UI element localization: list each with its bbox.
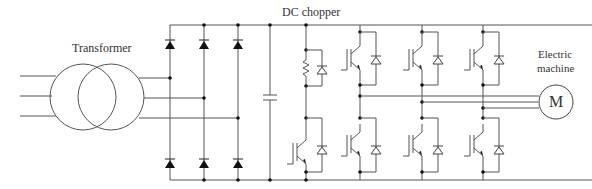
diode-icon [317, 146, 327, 154]
diode-rectifier [165, 23, 243, 182]
resistor-icon [303, 50, 309, 86]
capacitor-icon [263, 23, 277, 182]
input-lines [20, 76, 56, 116]
transformer-output-lines [139, 78, 238, 118]
diode-icon [165, 40, 175, 49]
dc-chopper [287, 23, 327, 182]
diode-icon [165, 159, 175, 168]
diode-icon [199, 159, 209, 168]
motor-symbol-label: M [549, 93, 563, 111]
diode-icon [199, 40, 209, 49]
transformer-symbol [50, 64, 144, 130]
circuit-diagram [0, 0, 592, 189]
diode-icon [233, 159, 243, 168]
diode-icon [317, 66, 327, 74]
inverter-leg-1 [341, 25, 381, 180]
diode-icon [233, 40, 243, 49]
igbt-icon [287, 132, 306, 172]
output-phase-lines [360, 96, 539, 108]
